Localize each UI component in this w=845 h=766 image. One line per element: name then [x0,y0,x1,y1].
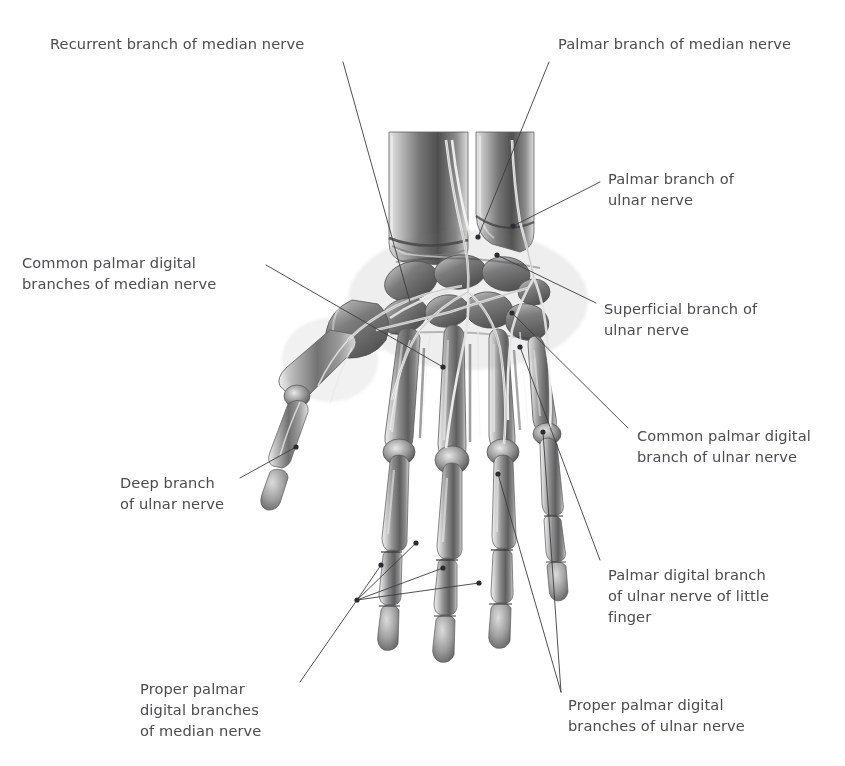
marker-median-index [378,562,383,567]
leader-palmar-digital-ulnar-little [520,347,600,560]
marker-deep-branch-ulnar [293,444,298,449]
marker-palmar-digital-ulnar-little [517,344,522,349]
label-palmar-digital-branch-ulnar-little-finger: Palmar digital branch of ulnar nerve of … [608,564,823,627]
marker-common-palmar-digital-ulnar [509,310,514,315]
marker-palmar-branch-median [475,234,480,239]
leader-proper-palmar-digital-ulnar-main [498,474,561,692]
marker-common-palmar-digital-median [440,364,445,369]
leader-palmar-branch-ulnar [513,182,600,226]
marker-median-f3 [440,565,445,570]
leader-proper-palmar-digital-median-f2 [357,543,416,600]
label-proper-palmar-digital-median: Proper palmar digital branches of median… [140,678,330,741]
leader-lines-layer [0,0,845,766]
marker-median-hub [354,597,359,602]
label-common-palmar-digital-ulnar: Common palmar digital branch of ulnar ne… [637,425,842,467]
leader-proper-palmar-digital-median-f1 [357,565,381,600]
label-superficial-branch-ulnar: Superficial branch of ulnar nerve [604,298,834,340]
label-recurrent-branch-median: Recurrent branch of median nerve [50,33,350,54]
label-palmar-branch-ulnar: Palmar branch of ulnar nerve [608,168,838,210]
label-deep-branch-ulnar: Deep branch of ulnar nerve [120,472,300,514]
label-common-palmar-digital-median: Common palmar digital branches of median… [22,252,262,294]
leader-proper-palmar-digital-median-f3 [357,568,443,600]
figure-canvas: Recurrent branch of median nervePalmar b… [0,0,845,766]
leader-proper-palmar-digital-median-main [300,600,357,682]
marker-ulnar-ring-upper [540,429,545,434]
marker-superficial-branch-ulnar [494,252,499,257]
label-proper-palmar-digital-ulnar: Proper palmar digital branches of ulnar … [568,694,803,736]
marker-median-f4 [476,580,481,585]
leader-proper-palmar-digital-ulnar-b [543,432,561,692]
marker-median-f2 [413,540,418,545]
leader-common-palmar-digital-median [266,265,443,367]
leader-superficial-branch-ulnar [497,255,596,303]
marker-ulnar-middle [495,471,500,476]
leader-palmar-branch-median [478,62,549,237]
leader-recurrent-branch-median [343,62,410,302]
marker-palmar-branch-ulnar [510,223,515,228]
label-palmar-branch-median: Palmar branch of median nerve [558,33,838,54]
leader-proper-palmar-digital-median-f4 [357,583,479,600]
